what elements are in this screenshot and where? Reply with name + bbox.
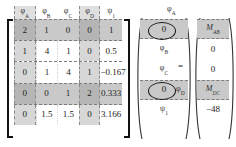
unknown-vector-entry-phi-c: φC: [160, 64, 168, 74]
matrix-cell: 1: [14, 41, 36, 61]
header-label: ψ1: [107, 7, 115, 17]
matrix-cell: 0.5: [100, 41, 122, 61]
list-item: φB: [140, 39, 188, 59]
matrix-cell: 1.5: [57, 105, 79, 125]
matrix-cell: 1.5: [36, 105, 58, 125]
header-label: φC: [64, 7, 72, 17]
table-row: 2 1 0 0 1: [14, 19, 122, 41]
table-row: 0 1.5 1.5 0 3.166: [14, 105, 122, 125]
matrix-cell: 0.333: [100, 84, 122, 104]
table-row: 0 1 4 1 −0.167: [14, 61, 122, 82]
matrix-cell: 3.166: [100, 105, 122, 125]
matrix-column-header-phi-c: φC: [57, 6, 79, 19]
matrix-left-bracket: [7, 19, 13, 138]
unknown-vector-entry-psi-1: ψ1: [160, 105, 168, 115]
list-item: 0: [197, 59, 229, 79]
list-item: −48: [197, 100, 229, 120]
matrix-cell: 0: [79, 20, 101, 40]
matrix-cell: 1: [79, 62, 101, 82]
list-item: 0: [197, 39, 229, 59]
header-label: φD: [85, 7, 94, 17]
bracket-tip-top: [124, 19, 130, 21]
matrix-cell: 0: [14, 105, 36, 125]
rhs-entry-m-dc: MDC: [206, 85, 220, 95]
matrix-cell: −0.167: [100, 62, 125, 82]
matrix-cell: 4: [57, 62, 79, 82]
rhs-vector-right-paren: [228, 17, 236, 140]
matrix-right-bracket: [124, 19, 130, 138]
unknown-vector-entry-phi-b: φB: [160, 44, 168, 54]
matrix-cell: 0: [79, 41, 101, 61]
unknown-vector: 0 φB φC 0 ψ1: [140, 19, 188, 138]
bracket-tip-top: [7, 19, 13, 21]
matrix-cell: 1: [57, 41, 79, 61]
unknown-vector-entry-phi-d-value: 0: [162, 85, 167, 94]
matrix-cell: 1: [36, 62, 58, 82]
matrix-cell: 2: [79, 84, 101, 104]
rhs-entry-m-ab: MAB: [206, 24, 219, 34]
bracket-tip-bottom: [124, 136, 130, 138]
matrix-column-header-phi-d: φD: [79, 6, 101, 19]
header-label: φA: [20, 7, 29, 17]
matrix-cell: 0: [14, 84, 36, 104]
matrix-column-header-psi-1: ψ1: [100, 6, 122, 19]
list-item: 0: [140, 19, 188, 39]
equals-sign: =: [178, 62, 183, 71]
header-label: φB: [42, 7, 50, 17]
rhs-vector: MAB 0 0 MDC −48: [197, 19, 229, 138]
list-item: ψ1: [140, 100, 188, 120]
list-item: MAB: [197, 19, 229, 39]
rhs-entry-minus-48: −48: [206, 105, 220, 114]
matrix-column-header-phi-b: φB: [36, 6, 58, 19]
matrix-equation-figure: φA φB φC φD ψ1 2 1 0 0 1 1 4 1: [0, 0, 236, 147]
matrix-cell: 1: [57, 84, 79, 104]
table-row: 0 0 1 2 0.333: [14, 83, 122, 105]
list-item: MDC: [197, 80, 229, 100]
coefficient-matrix: 2 1 0 0 1 1 4 1 0 0.5 0 1 4 1 −0.167 0 0…: [14, 19, 122, 138]
matrix-cell: 0: [57, 20, 79, 40]
matrix-cell: 0: [36, 84, 58, 104]
matrix-column-header-phi-a: φA: [14, 6, 36, 19]
rhs-entry-zero-1: 0: [211, 45, 216, 54]
matrix-cell: 2: [14, 20, 36, 40]
rhs-entry-zero-2: 0: [211, 65, 216, 74]
callout-label-phi-a: φA: [167, 5, 176, 15]
bracket-tip-bottom: [7, 136, 13, 138]
unknown-vector-entry-phi-a-value: 0: [162, 25, 167, 34]
matrix-column-headers: φA φB φC φD ψ1: [14, 6, 122, 19]
matrix-cell: 1: [36, 20, 58, 40]
table-row: 1 4 1 0 0.5: [14, 41, 122, 61]
matrix-cell: 4: [36, 41, 58, 61]
matrix-cell: 1: [100, 20, 122, 40]
callout-label-phi-d: φD: [176, 85, 185, 95]
matrix-cell: 0: [14, 62, 36, 82]
matrix-cell: 0: [79, 105, 101, 125]
